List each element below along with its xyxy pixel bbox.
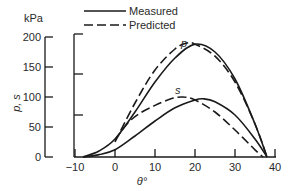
series-s-measured xyxy=(83,99,267,157)
x-tick-label: 10 xyxy=(149,161,161,173)
legend-predicted-label: Predicted xyxy=(129,19,175,31)
y-unit-label: kPa xyxy=(24,12,44,24)
curve-label-s: s xyxy=(175,84,181,96)
x-tick-label: 20 xyxy=(189,161,201,173)
x-axis-label: θ° xyxy=(137,175,148,187)
axes: 050100150200−10010203040 xyxy=(23,31,281,173)
series-p-measured xyxy=(83,44,267,157)
series xyxy=(83,42,267,157)
y-axis-label: p, s xyxy=(10,94,22,113)
curve-label-p: p xyxy=(180,37,187,49)
y-tick-label: 0 xyxy=(35,151,41,163)
y-tick-label: 200 xyxy=(23,31,41,43)
x-tick-label: −10 xyxy=(66,161,85,173)
series-s-predicted xyxy=(115,97,263,157)
chart: 050100150200−10010203040 kPa p, s θ° Mea… xyxy=(0,0,289,191)
y-tick-label: 150 xyxy=(23,61,41,73)
legend-measured-label: Measured xyxy=(129,5,178,17)
x-tick-label: 40 xyxy=(269,161,281,173)
x-tick-label: 0 xyxy=(112,161,118,173)
chart-canvas: 050100150200−10010203040 kPa p, s θ° Mea… xyxy=(0,0,289,191)
y-tick-label: 100 xyxy=(23,91,41,103)
y-tick-label: 50 xyxy=(29,121,41,133)
x-tick-label: 30 xyxy=(229,161,241,173)
legend: Measured Predicted xyxy=(84,5,178,31)
